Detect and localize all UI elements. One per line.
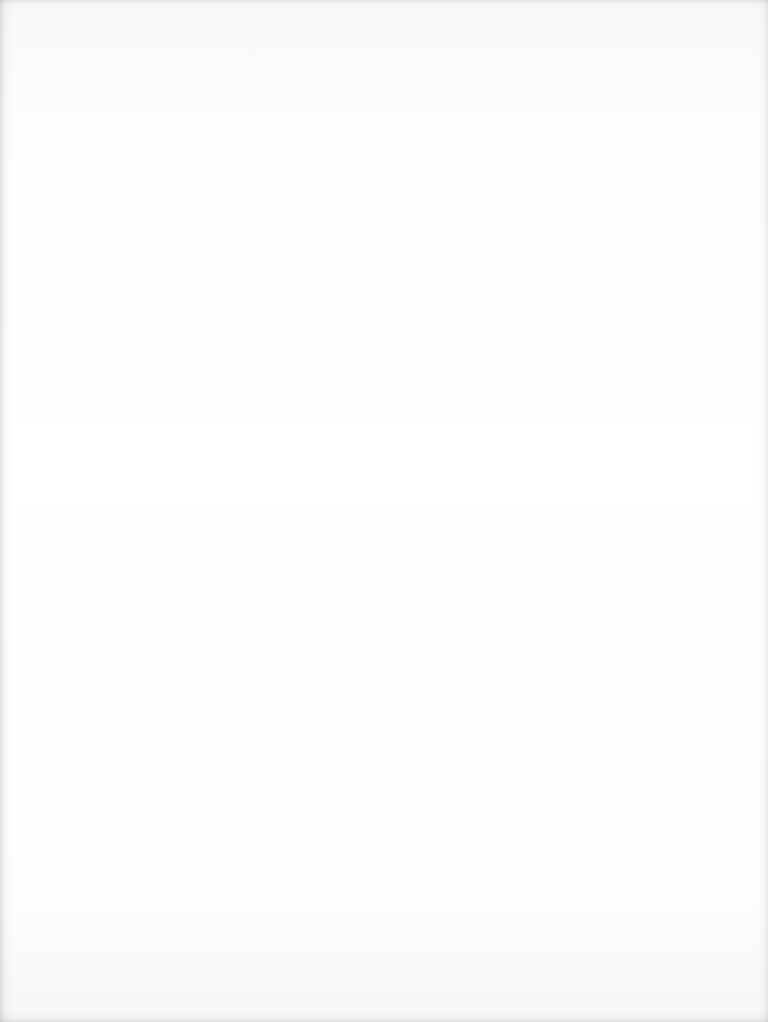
corner-roman: V (66, 32, 74, 44)
corner-element: Ti (50, 32, 61, 44)
axis-tick-label-0: 0 (739, 909, 750, 914)
level-label-3d-3Do: 3d(1) (639, 95, 648, 115)
level-label-5s-1Po: 5s(1) (325, 501, 334, 520)
transition-3d-3Do-ground (640, 118, 731, 707)
energy-axis-line (109, 894, 749, 895)
axis-tick (432, 886, 433, 895)
level-label-4s-3Po: 4s(1) (496, 299, 505, 318)
axis-tick (331, 886, 332, 895)
transition-3d-1Po-ground (513, 543, 731, 707)
axis-tick-label-400: 400 x 103 (539, 916, 551, 958)
level-label-5s-3Po: 5s(1) (331, 299, 340, 318)
axis-tick (533, 886, 534, 895)
energy-axis-title: ENERGY (cm-1) (381, 936, 454, 948)
transition-4s-3Po-ground (497, 341, 731, 707)
column-header-nl-1Po: nl 1Po (101, 505, 113, 530)
transition-6s-1Po-ground (247, 543, 731, 707)
transition-5s-1Po-ground (326, 543, 731, 707)
vertical-axis-line (109, 40, 111, 895)
transition-3s3p6-4p-1Po-ground (236, 543, 731, 707)
level-label-3d-1Po: 3d(1) (512, 500, 521, 520)
axis-tick (230, 886, 231, 895)
transition-3d-3Po-ground (653, 341, 731, 707)
corner-identification-block: TiV SINGLET TRIPLET GROTRIAN DIAGRAM (50, 33, 89, 74)
grotrian-diagram-page: TiV SINGLET TRIPLET GROTRIAN DIAGRAM Ti … (0, 0, 768, 1022)
transition-5s-3Po-ground (332, 341, 731, 707)
level-label-6s-1Po: 6s(1) (248, 501, 257, 520)
column-header-nl-3Po: nl 3Po (101, 305, 113, 330)
axis-tick-label-700: 700 x 103 (236, 916, 248, 958)
level-label-ground-3p: 3(0) (742, 705, 751, 720)
axis-tick-label-600: 600 x 103 (337, 916, 349, 958)
axis-tick-label-800: 800 x 103 (127, 916, 139, 958)
axis-tick (121, 886, 122, 895)
corner-line-diagram: DIAGRAM (50, 67, 89, 74)
column-header-nd-3Do: nd 3Do (101, 99, 113, 128)
axis-tick (634, 886, 635, 895)
level-label-4s-1Po: 4s(1) (461, 501, 470, 520)
level-label-3d-3Po: 3d(1) (652, 298, 661, 318)
axis-tick-label-300: 300 x 103 (640, 916, 652, 958)
column-header-np-1S: np 1S (101, 699, 113, 722)
level-label-6s-3Po: 6s(1) (252, 299, 261, 318)
diagram-vector-layer (0, 0, 768, 1022)
level-label-3s3p6-4p-1Po: 3s3p64p(1) (235, 478, 246, 520)
